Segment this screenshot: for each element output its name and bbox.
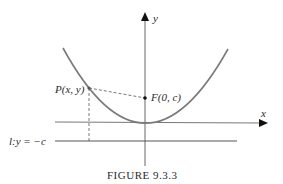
directrix-label: l:y = −c [9,135,46,147]
point-f-label: F(0, c) [150,91,181,104]
parabola-figure: y x l:y = −c P(x, y) F(0, c) FIGURE 9.3.… [0,0,283,184]
x-axis-label: x [260,107,266,119]
x-axis-arrow-icon [259,119,268,127]
point-p-label: P(x, y) [54,83,85,96]
point-p [87,86,90,89]
figure-caption: FIGURE 9.3.3 [107,169,177,181]
point-f [143,96,147,100]
y-axis-arrow-icon [141,12,149,21]
y-axis-label: y [152,12,158,24]
segment-pf [89,88,145,98]
